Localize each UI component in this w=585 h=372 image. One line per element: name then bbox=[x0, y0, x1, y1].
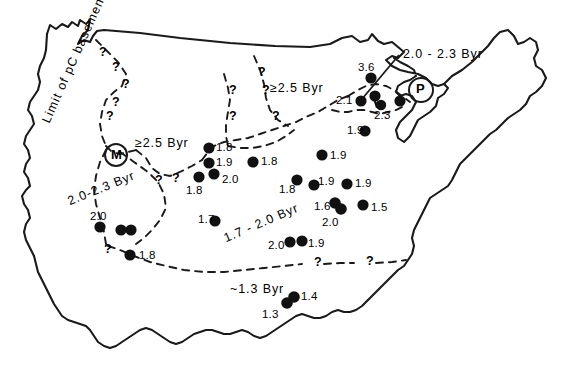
query-marker: ? bbox=[366, 255, 374, 268]
sample-label: 1.9 bbox=[347, 125, 364, 137]
query-marker: ? bbox=[104, 243, 112, 256]
sample-label: 1.9 bbox=[330, 150, 347, 162]
mazatzal-province-marker: M bbox=[111, 148, 122, 161]
query-marker: ? bbox=[258, 66, 266, 79]
query-marker: ? bbox=[272, 110, 280, 123]
query-marker: ? bbox=[112, 61, 120, 74]
sample-label: 3.6 bbox=[358, 62, 375, 74]
sample-label: 2.0 bbox=[268, 240, 285, 252]
region-label-2023byr: 2.0 - 2.3 Byr bbox=[403, 48, 483, 61]
region-label-25byr-north: ≥2.5 Byr bbox=[270, 82, 324, 95]
sample-label: 1.8 bbox=[261, 156, 278, 168]
sample-label: 1.3 bbox=[262, 309, 279, 321]
sample-label: 1.7 bbox=[198, 214, 215, 226]
region-label-25byr-west: ≥2.5 Byr bbox=[135, 137, 189, 150]
penokean-province-marker: P bbox=[416, 82, 425, 95]
region-label-13byr: ~1.3 Byr bbox=[230, 283, 284, 296]
sample-label: 1.9 bbox=[318, 176, 335, 188]
sample-label: 2.1 bbox=[336, 95, 353, 107]
query-marker: ? bbox=[155, 174, 163, 187]
sample-label: 1.4 bbox=[301, 291, 318, 303]
query-marker: ? bbox=[229, 84, 237, 97]
query-marker: ? bbox=[229, 110, 237, 123]
sample-label: 1.8 bbox=[279, 184, 296, 196]
sample-label: 2.0 bbox=[222, 174, 239, 186]
query-marker: ? bbox=[314, 256, 322, 269]
sample-label: 2.0 bbox=[90, 211, 107, 223]
sample-label: 2.0 bbox=[322, 217, 339, 229]
sample-label: 1.5 bbox=[371, 202, 388, 214]
precambrian-basement-age-map: M P ≥2.5 Byr ≥2.5 Byr 2.0 - 2.3 Byr 2.0-… bbox=[0, 0, 585, 372]
sample-label: 1.9 bbox=[308, 238, 325, 250]
query-marker: ? bbox=[106, 110, 114, 123]
sample-label: 2.3 bbox=[374, 110, 391, 122]
query-marker: ? bbox=[112, 96, 120, 109]
query-marker: ? bbox=[172, 172, 180, 185]
sample-label: 1.8 bbox=[216, 142, 233, 154]
sample-label: 1.6 bbox=[314, 201, 331, 213]
sample-label: 1.9 bbox=[355, 178, 372, 190]
query-marker: ? bbox=[122, 78, 130, 91]
province-boundary-dashed-lines bbox=[94, 40, 410, 272]
sample-label: 1.9 bbox=[216, 157, 233, 169]
sample-label: 1.8 bbox=[186, 185, 203, 197]
sample-point-markers bbox=[94, 72, 405, 308]
sample-label: 1.8 bbox=[139, 250, 156, 262]
query-marker: ? bbox=[99, 46, 107, 59]
query-marker: ? bbox=[262, 84, 270, 97]
